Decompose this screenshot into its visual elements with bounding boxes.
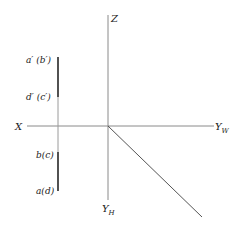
label-a-prime-b-prime: a′ (b′) — [26, 55, 52, 65]
label-b-c: b(c) — [36, 150, 54, 160]
projection-diagram: Z X YW YH a′ (b′) d′ (c′) b(c) a(d) — [0, 0, 240, 233]
label-d-prime-c-prime: d′ (c′) — [26, 92, 51, 102]
yw-axis-label: YW — [215, 121, 230, 135]
z-axis-label: Z — [110, 13, 119, 24]
yh-axis-label: YH — [102, 203, 116, 217]
x-axis-label: X — [14, 121, 23, 132]
diagonal-line — [108, 126, 202, 217]
label-a-d: a(d) — [36, 186, 55, 196]
